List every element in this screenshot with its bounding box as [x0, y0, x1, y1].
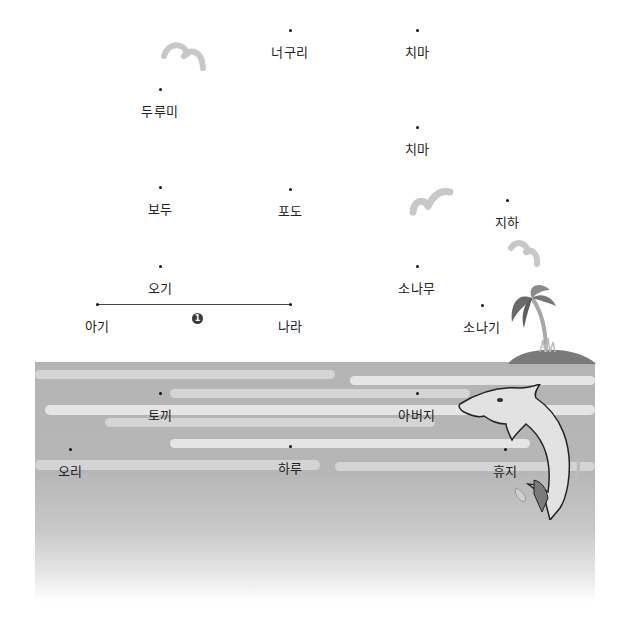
- word-chima-2[interactable]: 치마: [377, 126, 457, 158]
- connect-dot[interactable]: [289, 188, 292, 191]
- word-hyuji[interactable]: 휴지: [465, 448, 545, 480]
- word-chima-1[interactable]: 치마: [377, 29, 457, 61]
- word-label: 나라: [278, 319, 303, 334]
- connect-dot[interactable]: [289, 445, 292, 448]
- word-sonagi[interactable]: 소나기: [442, 304, 522, 336]
- connect-dot[interactable]: [289, 303, 292, 306]
- connect-dot[interactable]: [506, 199, 509, 202]
- word-label: 소나무: [398, 281, 436, 296]
- word-label: 아버지: [398, 408, 436, 423]
- seagull-icon: [408, 186, 454, 220]
- word-haru[interactable]: 하루: [250, 445, 330, 477]
- word-label: 너구리: [271, 45, 309, 60]
- word-label: 토끼: [148, 408, 173, 423]
- word-jiha[interactable]: 지하: [467, 199, 547, 231]
- word-label: 치마: [405, 142, 430, 157]
- word-label: 휴지: [493, 464, 518, 479]
- word-label: 하루: [278, 461, 303, 476]
- connect-dot[interactable]: [96, 303, 99, 306]
- word-neoguri[interactable]: 너구리: [250, 29, 330, 61]
- word-podo[interactable]: 포도: [250, 188, 330, 220]
- word-label: 포도: [278, 204, 303, 219]
- word-label: 치마: [405, 45, 430, 60]
- word-ogi[interactable]: 오기: [120, 265, 200, 297]
- connect-dot[interactable]: [481, 304, 484, 307]
- word-label: 두루미: [141, 104, 179, 119]
- connect-dot[interactable]: [416, 126, 419, 129]
- worksheet-stage: 1 너구리 치마 두루미 치마 보두 포도 지하 오기 소나무 아기: [0, 0, 624, 626]
- word-label: 아기: [85, 319, 110, 334]
- word-ori[interactable]: 오리: [30, 448, 110, 480]
- word-label: 소나기: [463, 320, 501, 335]
- connect-dot[interactable]: [416, 29, 419, 32]
- connect-dot[interactable]: [159, 265, 162, 268]
- word-label: 지하: [495, 215, 520, 230]
- word-sonamu[interactable]: 소나무: [377, 265, 457, 297]
- connect-dot[interactable]: [159, 88, 162, 91]
- connect-dot[interactable]: [416, 265, 419, 268]
- connect-dot[interactable]: [416, 392, 419, 395]
- word-bodu[interactable]: 보두: [120, 186, 200, 218]
- word-abeoji[interactable]: 아버지: [377, 392, 457, 424]
- connect-dot[interactable]: [69, 448, 72, 451]
- connect-dot[interactable]: [289, 29, 292, 32]
- connect-dot[interactable]: [159, 186, 162, 189]
- word-label: 오기: [148, 281, 173, 296]
- word-agi[interactable]: 아기: [57, 303, 137, 335]
- word-label: 오리: [58, 464, 83, 479]
- word-label: 보두: [148, 202, 173, 217]
- wave: [35, 370, 335, 379]
- word-tokki[interactable]: 토끼: [120, 392, 200, 424]
- word-nara[interactable]: 나라: [250, 303, 330, 335]
- seagull-icon: [506, 238, 542, 270]
- connect-dot[interactable]: [504, 448, 507, 451]
- example-number-badge: 1: [192, 313, 203, 324]
- connect-dot[interactable]: [159, 392, 162, 395]
- word-durumi[interactable]: 두루미: [120, 88, 200, 120]
- seagull-icon: [160, 40, 210, 76]
